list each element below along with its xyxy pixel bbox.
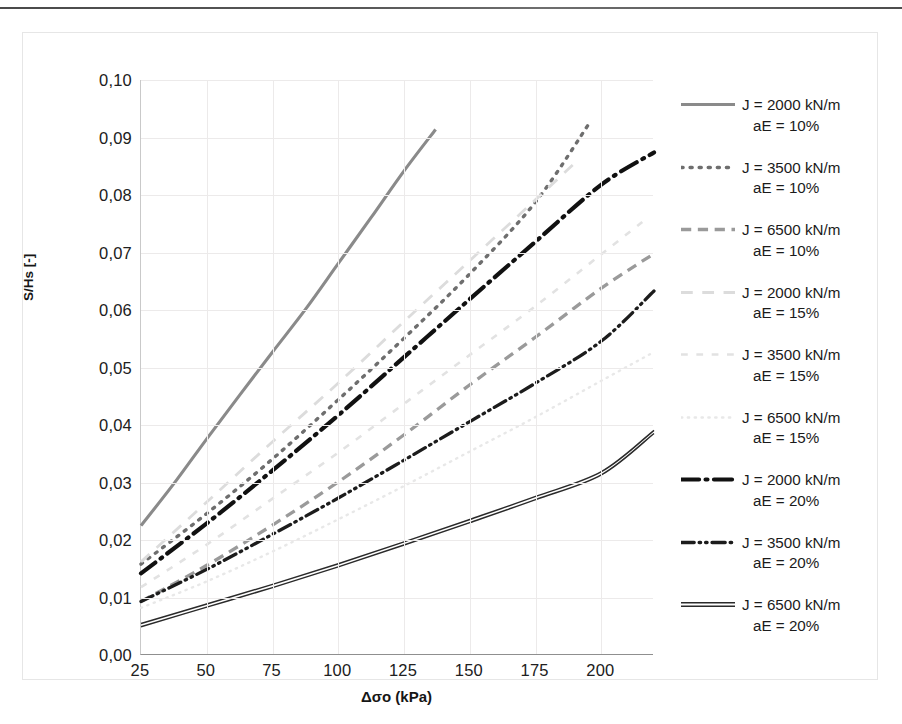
legend-label-line1: J = 6500 kN/m <box>742 596 840 613</box>
gridline-vertical <box>536 80 537 654</box>
legend-label: J = 3500 kN/maE = 20% <box>742 533 840 574</box>
legend-line-swatch-icon <box>681 471 735 488</box>
gridline-horizontal <box>141 138 653 139</box>
y-axis-tick-label: 0,03 <box>62 473 132 492</box>
legend-line-swatch-icon <box>681 346 735 363</box>
series-line <box>141 254 654 602</box>
legend-label: J = 3500 kN/maE = 10% <box>742 158 840 199</box>
series-line <box>141 291 654 601</box>
series-line <box>141 121 591 564</box>
gridline-vertical <box>273 80 274 654</box>
legend-line-swatch-icon <box>681 534 735 551</box>
gridline-vertical <box>207 80 208 654</box>
y-axis-tick-label: 0,06 <box>62 301 132 320</box>
gridline-vertical <box>338 80 339 654</box>
legend-label: J = 6500 kN/maE = 15% <box>742 408 840 449</box>
plot-area <box>140 80 653 655</box>
legend-item[interactable]: J = 2000 kN/maE = 15% <box>681 283 902 327</box>
series-line <box>141 217 649 587</box>
legend-label-line1: J = 2000 kN/m <box>742 96 840 113</box>
gridline-horizontal <box>141 540 653 541</box>
legend-label-line2: aE = 20% <box>742 553 840 574</box>
gridline-horizontal <box>141 195 653 196</box>
x-axis-tick-label: 25 <box>110 661 170 680</box>
legend-label-line2: aE = 15% <box>742 303 840 324</box>
legend-line-swatch-icon <box>681 159 735 176</box>
legend-label-line2: aE = 15% <box>742 366 840 387</box>
legend-item[interactable]: J = 3500 kN/maE = 10% <box>681 158 902 202</box>
y-axis-tick-label: 0,01 <box>62 588 132 607</box>
legend-item[interactable]: J = 6500 kN/maE = 10% <box>681 220 902 264</box>
legend-label-line1: J = 2000 kN/m <box>742 284 840 301</box>
chart-container: S/Hs [-] 0,000,010,020,030,040,050,060,0… <box>22 32 878 680</box>
legend-label-line1: J = 6500 kN/m <box>742 409 840 426</box>
x-axis-tick-label: 150 <box>439 661 499 680</box>
series-line <box>141 352 654 608</box>
legend-line-swatch-icon <box>681 596 735 613</box>
legend-item[interactable]: J = 2000 kN/maE = 20% <box>681 470 902 514</box>
legend-label-line2: aE = 10% <box>742 116 840 137</box>
legend-label-line2: aE = 20% <box>742 616 840 637</box>
legend-label-line1: J = 6500 kN/m <box>742 221 840 238</box>
y-axis-tick-labels: 0,000,010,020,030,040,050,060,070,080,09… <box>60 80 132 655</box>
gridline-horizontal <box>141 483 653 484</box>
legend-label: J = 6500 kN/maE = 10% <box>742 220 840 261</box>
gridline-horizontal <box>141 80 653 81</box>
gridline-horizontal <box>141 310 653 311</box>
gridline-vertical <box>470 80 471 654</box>
x-axis-tick-labels: 255075100125150175200 <box>140 661 653 685</box>
legend-item[interactable]: J = 3500 kN/maE = 15% <box>681 345 902 389</box>
legend-label-line2: aE = 10% <box>742 241 840 262</box>
y-axis-tick-label: 0,02 <box>62 531 132 550</box>
legend-item[interactable]: J = 6500 kN/maE = 15% <box>681 408 902 452</box>
y-axis-tick-label: 0,07 <box>62 243 132 262</box>
x-axis-tick-label: 200 <box>570 661 630 680</box>
legend-label: J = 6500 kN/maE = 20% <box>742 595 840 636</box>
legend-label-line1: J = 3500 kN/m <box>742 159 840 176</box>
legend-item[interactable]: J = 6500 kN/maE = 20% <box>681 595 902 639</box>
legend-label-line1: J = 3500 kN/m <box>742 534 840 551</box>
gridline-horizontal <box>141 253 653 254</box>
legend-label-line1: J = 2000 kN/m <box>742 471 840 488</box>
series-line <box>141 430 654 623</box>
y-axis-tick-label: 0,04 <box>62 416 132 435</box>
x-axis-tick-label: 75 <box>242 661 302 680</box>
x-axis-tick-label: 100 <box>307 661 367 680</box>
gridline-horizontal <box>141 368 653 369</box>
legend-line-swatch-icon <box>681 409 735 426</box>
legend-label-line2: aE = 15% <box>742 428 840 449</box>
legend-label: J = 3500 kN/maE = 15% <box>742 345 840 386</box>
legend-label: J = 2000 kN/maE = 20% <box>742 470 840 511</box>
legend-label-line2: aE = 20% <box>742 491 840 512</box>
legend-item[interactable]: J = 3500 kN/maE = 20% <box>681 533 902 577</box>
gridline-vertical <box>601 80 602 654</box>
y-axis-tick-label: 0,05 <box>62 358 132 377</box>
gridline-horizontal <box>141 598 653 599</box>
legend-item[interactable]: J = 2000 kN/maE = 10% <box>681 95 902 139</box>
legend-line-swatch-icon <box>681 284 735 301</box>
gridline-vertical <box>404 80 405 654</box>
legend-label-line1: J = 3500 kN/m <box>742 346 840 363</box>
x-axis-tick-label: 175 <box>505 661 565 680</box>
y-axis-tick-label: 0,09 <box>62 128 132 147</box>
x-axis-tick-label: 50 <box>176 661 236 680</box>
legend-line-swatch-icon <box>681 96 735 113</box>
x-axis-title: Δσo (kPa) <box>140 688 653 705</box>
gridline-horizontal <box>141 425 653 426</box>
chart-legend: J = 2000 kN/maE = 10%J = 3500 kN/maE = 1… <box>681 95 902 658</box>
y-axis-tick-label: 0,10 <box>62 71 132 90</box>
x-axis-tick-label: 125 <box>373 661 433 680</box>
y-axis-tick-label: 0,08 <box>62 186 132 205</box>
y-axis-title: S/Hs [-] <box>21 254 36 301</box>
legend-line-swatch-icon <box>681 221 735 238</box>
legend-label: J = 2000 kN/maE = 10% <box>742 95 840 136</box>
legend-label-line2: aE = 10% <box>742 178 840 199</box>
legend-label: J = 2000 kN/maE = 15% <box>742 283 840 324</box>
scan-artifact-rule <box>0 7 902 9</box>
series-line <box>141 152 654 573</box>
